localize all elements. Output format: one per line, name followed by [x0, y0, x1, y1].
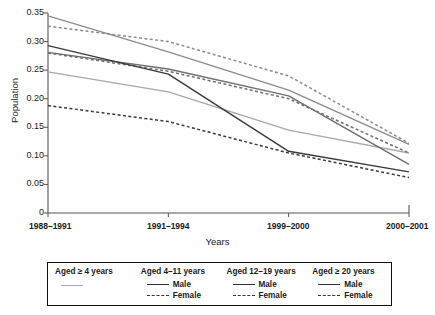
legend-line-swatch-icon: [233, 295, 255, 296]
legend-line-swatch-icon: [233, 284, 255, 285]
legend-group: Aged ≥ 20 yearsMaleFemale: [305, 267, 391, 305]
legend-group: Aged 12–19 yearsMaleFemale: [220, 267, 306, 305]
legend-entry[interactable]: Male: [318, 279, 391, 290]
legend-line-swatch-icon: [318, 295, 340, 296]
series-lines: [48, 16, 409, 178]
legend-line-swatch-icon: [147, 284, 169, 285]
legend-group-title: Aged ≥ 4 years: [55, 267, 134, 276]
legend-entry[interactable]: Female: [147, 290, 220, 301]
legend-entry-label: Male: [259, 280, 277, 289]
legend-group-title: Aged 4–11 years: [141, 267, 220, 276]
x-tick-label: 1988–1991: [29, 221, 72, 231]
legend-line-swatch-icon: [147, 295, 169, 296]
line-chart-plot: [0, 0, 435, 250]
series-line: [48, 106, 409, 178]
y-tick-marks: [44, 13, 48, 213]
chart-container: Population 00.050.100.150.200.250.300.35…: [0, 0, 435, 315]
series-line: [48, 16, 409, 145]
legend-entry-label: Male: [344, 280, 362, 289]
legend-group-title: Aged ≥ 20 years: [312, 267, 391, 276]
legend-group: Aged 4–11 yearsMaleFemale: [134, 267, 220, 305]
legend-entry-label: Female: [344, 291, 372, 300]
legend-entry-label: Male: [173, 280, 191, 289]
x-tick-marks: [48, 213, 409, 217]
x-tick-label: 1999–2000: [267, 221, 310, 231]
legend-group-title: Aged 12–19 years: [227, 267, 306, 276]
legend-group: Aged ≥ 4 years: [48, 267, 134, 305]
legend-entry-label: Female: [259, 291, 287, 300]
chart-legend: Aged ≥ 4 yearsAged 4–11 yearsMaleFemaleA…: [47, 262, 392, 306]
legend-entry[interactable]: Male: [147, 279, 220, 290]
series-line: [48, 46, 409, 172]
legend-line-swatch-icon: [318, 284, 340, 285]
legend-entry[interactable]: Male: [233, 279, 306, 290]
legend-line-swatch-icon: [61, 285, 83, 286]
legend-entry-label: Female: [173, 291, 201, 300]
legend-entry[interactable]: Female: [233, 290, 306, 301]
legend-entry[interactable]: Female: [318, 290, 391, 301]
x-tick-label: 2000–2001: [386, 221, 429, 231]
series-line: [48, 26, 409, 143]
x-axis-title: Years: [0, 236, 435, 247]
series-line: [48, 52, 409, 164]
x-tick-label: 1991–1994: [147, 221, 190, 231]
legend-entry[interactable]: [61, 280, 134, 291]
